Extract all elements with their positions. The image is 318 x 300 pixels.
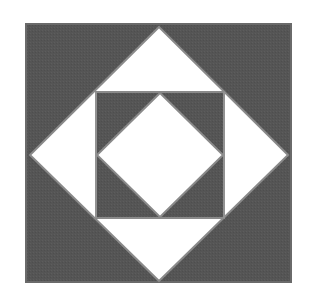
quilt-block-figure: Square within a square geometric block (0, 0, 318, 300)
quilt-block-svg (0, 0, 318, 300)
